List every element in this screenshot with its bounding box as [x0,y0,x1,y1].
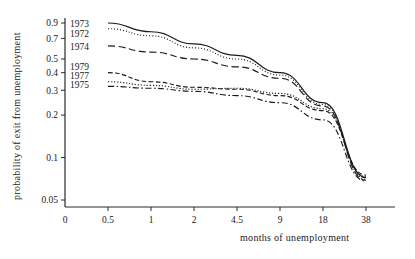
y-tick-label: 0.3 [46,86,58,96]
y-axis-ticks: 0.90.70.50.40.30.20.10.05 [41,18,65,205]
x-tick-label: 1 [149,215,154,225]
x-axis-ticks: 00.5124.591838 [63,207,371,225]
series-label-1972: 1972 [70,29,89,39]
series-line-1975 [108,86,366,181]
x-tick-label: 0.5 [102,215,114,225]
y-tick-label: 0.05 [41,195,58,205]
series-line-1974 [108,46,366,180]
y-tick-label: 0.9 [46,18,58,28]
series-label-1975: 1975 [70,80,89,90]
x-tick-label: 0 [63,215,68,225]
x-tick-label: 4.5 [231,215,243,225]
y-axis-title: probability of exit from unemployment [11,32,22,200]
x-tick-label: 9 [278,215,283,225]
chart-canvas: 0.90.70.50.40.30.20.10.05 00.5124.591838… [0,0,415,259]
x-axis-title: months of unemployment [240,232,349,243]
series-label-1973: 1973 [70,19,89,29]
y-tick-label: 0.4 [46,68,58,78]
series-inline-labels: 197319721974197919771975 [70,19,89,90]
series-label-1974: 1974 [70,42,89,52]
x-tick-label: 38 [361,215,371,225]
y-tick-label: 0.7 [46,34,58,44]
chart-figure: 0.90.70.50.40.30.20.10.05 00.5124.591838… [0,0,415,259]
series-line-1973 [108,23,366,178]
y-tick-label: 0.5 [46,54,58,64]
y-tick-label: 0.1 [46,153,58,163]
y-tick-label: 0.2 [46,110,58,120]
x-tick-label: 18 [318,215,328,225]
series-lines [108,23,366,181]
x-tick-label: 2 [192,215,197,225]
